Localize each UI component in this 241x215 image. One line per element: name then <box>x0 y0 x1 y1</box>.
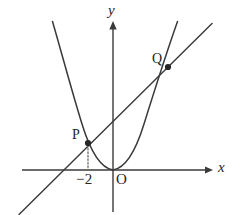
x-tick-label-minus-two: −2 <box>76 172 93 187</box>
parabola-curve <box>53 22 178 171</box>
point-p-label: P <box>72 128 80 142</box>
x-axis-arrow-icon <box>205 166 213 173</box>
point-q-label: Q <box>152 52 162 66</box>
point-p-dot <box>85 140 91 146</box>
y-axis-label: y <box>108 3 115 18</box>
x-axis-label: x <box>218 160 225 175</box>
y-axis-arrow-icon <box>109 21 116 30</box>
origin-label: O <box>116 172 127 187</box>
graph-figure: y x P Q −2 O <box>0 0 241 215</box>
point-q-dot <box>165 64 171 70</box>
